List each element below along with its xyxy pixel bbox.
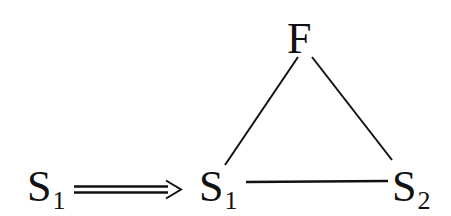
node-s2-subscript: 2	[417, 186, 430, 215]
double-arrow-edge	[74, 181, 181, 199]
node-s1-source: S1	[27, 165, 65, 209]
node-s1-label: S	[199, 162, 223, 211]
node-s1-source-label: S	[27, 162, 51, 211]
edge-s1-s2	[246, 181, 388, 182]
node-s2: S2	[392, 165, 430, 209]
node-f: F	[287, 17, 311, 61]
node-s1-source-subscript: 1	[52, 186, 65, 215]
edge-f-s2	[312, 57, 392, 160]
diagram-canvas: S1 S1 S2 F	[0, 0, 451, 216]
node-f-label: F	[287, 14, 311, 63]
edge-f-s1	[225, 57, 298, 165]
node-s2-label: S	[392, 162, 416, 211]
node-s1-subscript: 1	[224, 186, 237, 215]
node-s1: S1	[199, 165, 237, 209]
